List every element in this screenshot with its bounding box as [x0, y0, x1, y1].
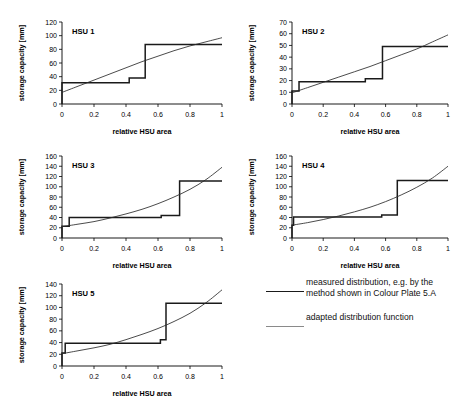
- y-tick-label: 40: [279, 214, 287, 221]
- chart-svg-1: 02040608010012000.20.40.60.81relative HS…: [14, 10, 230, 140]
- y-tick-label: 100: [45, 304, 57, 311]
- x-axis-title: relative HSU area: [112, 261, 172, 270]
- y-tick-label: 80: [49, 194, 57, 201]
- series-adapted-curve: [62, 38, 222, 93]
- y-tick-label: 20: [49, 351, 57, 358]
- x-tick-label: 1: [446, 245, 450, 252]
- legend-item-adapted: adapted distribution function: [262, 311, 458, 331]
- y-tick-label: 120: [45, 19, 57, 26]
- x-axis-title: relative HSU area: [340, 127, 400, 136]
- x-tick-label: 1: [446, 111, 450, 118]
- x-tick-label: 0.8: [185, 245, 195, 252]
- y-tick-label: 80: [279, 194, 287, 201]
- y-tick-label: 160: [275, 153, 287, 160]
- x-tick-label: 0.4: [350, 111, 360, 118]
- x-tick-label: 0: [290, 245, 294, 252]
- x-tick-label: 0.8: [412, 245, 422, 252]
- figure-legend: measured distribution, e.g. by the metho…: [262, 276, 458, 342]
- y-tick-label: 140: [45, 163, 57, 170]
- x-tick-label: 0.8: [185, 111, 195, 118]
- x-tick-label: 0.2: [318, 245, 328, 252]
- x-tick-label: 0.4: [350, 245, 360, 252]
- y-axis-title: storage capacity [mm]: [247, 159, 256, 235]
- chart-panel-5: 02040608010012014000.20.40.60.81relative…: [14, 272, 230, 400]
- panel-title: HSU 3: [72, 161, 94, 170]
- y-axis-title: storage capacity [mm]: [247, 25, 256, 101]
- y-tick-label: 80: [49, 46, 57, 53]
- chart-svg-5: 02040608010012014000.20.40.60.81relative…: [14, 272, 230, 400]
- series-measured-step: [292, 181, 448, 238]
- y-tick-label: 20: [49, 224, 57, 231]
- y-tick-label: 60: [49, 327, 57, 334]
- y-tick-label: 40: [49, 73, 57, 80]
- x-tick-label: 0.6: [153, 373, 163, 380]
- y-tick-label: 20: [279, 77, 287, 84]
- x-tick-label: 0.4: [121, 111, 131, 118]
- y-tick-label: 60: [279, 30, 287, 37]
- y-tick-label: 0: [53, 235, 57, 242]
- x-tick-label: 0.6: [153, 111, 163, 118]
- y-tick-label: 0: [53, 101, 57, 108]
- y-axis-title: storage capacity [mm]: [17, 159, 26, 235]
- x-tick-label: 0: [290, 111, 294, 118]
- panel-title: HSU 4: [302, 161, 325, 170]
- y-tick-label: 20: [49, 87, 57, 94]
- x-tick-label: 0.6: [381, 245, 391, 252]
- legend-label-adapted: adapted distribution function: [306, 311, 414, 323]
- x-tick-label: 0: [60, 373, 64, 380]
- legend-item-measured: measured distribution, e.g. by the metho…: [262, 276, 458, 300]
- y-tick-label: 40: [49, 339, 57, 346]
- x-axis-title: relative HSU area: [112, 127, 172, 136]
- y-tick-label: 140: [45, 281, 57, 288]
- legend-line-measured-icon: [262, 287, 306, 296]
- x-tick-label: 0.8: [185, 373, 195, 380]
- y-tick-label: 20: [279, 224, 287, 231]
- series-measured-step: [62, 45, 222, 104]
- x-tick-label: 0.6: [381, 111, 391, 118]
- chart-svg-4: 02040608010012014016000.20.40.60.81relat…: [244, 144, 456, 274]
- series-adapted-curve: [292, 35, 448, 93]
- panel-title: HSU 2: [302, 27, 324, 36]
- y-tick-label: 60: [279, 204, 287, 211]
- y-tick-label: 0: [53, 363, 57, 370]
- y-tick-label: 70: [279, 19, 287, 26]
- y-tick-label: 0: [283, 101, 287, 108]
- y-tick-label: 10: [279, 89, 287, 96]
- x-tick-label: 0.2: [89, 373, 99, 380]
- panel-title: HSU 1: [72, 27, 95, 36]
- x-axis-title: relative HSU area: [340, 261, 400, 270]
- x-tick-label: 0.4: [121, 373, 131, 380]
- y-axis-title: storage capacity [mm]: [17, 287, 26, 363]
- y-tick-label: 0: [283, 235, 287, 242]
- x-tick-label: 0.2: [318, 111, 328, 118]
- y-tick-label: 100: [45, 32, 57, 39]
- chart-svg-2: 01020304050607000.20.40.60.81relative HS…: [244, 10, 456, 140]
- series-adapted-curve: [62, 290, 222, 354]
- x-tick-label: 0.2: [89, 245, 99, 252]
- y-tick-label: 140: [275, 163, 287, 170]
- figure-canvas: 02040608010012000.20.40.60.81relative HS…: [0, 0, 460, 400]
- chart-panel-4: 02040608010012014016000.20.40.60.81relat…: [244, 144, 456, 274]
- y-tick-label: 60: [49, 60, 57, 67]
- x-tick-label: 0: [60, 245, 64, 252]
- x-tick-label: 0.4: [121, 245, 131, 252]
- legend-line-adapted-icon: [262, 322, 306, 331]
- series-measured-step: [292, 47, 448, 104]
- panel-title: HSU 5: [72, 289, 95, 298]
- y-tick-label: 120: [45, 173, 57, 180]
- x-tick-label: 0: [60, 111, 64, 118]
- y-tick-label: 40: [49, 214, 57, 221]
- x-tick-label: 1: [220, 373, 224, 380]
- y-tick-label: 160: [45, 153, 57, 160]
- y-tick-label: 100: [45, 183, 57, 190]
- x-axis-title: relative HSU area: [112, 389, 172, 398]
- y-tick-label: 30: [279, 65, 287, 72]
- y-tick-label: 120: [45, 292, 57, 299]
- chart-svg-3: 02040608010012014016000.20.40.60.81relat…: [14, 144, 230, 274]
- x-tick-label: 1: [220, 111, 224, 118]
- y-tick-label: 80: [49, 316, 57, 323]
- x-tick-label: 0.8: [412, 111, 422, 118]
- y-tick-label: 100: [275, 183, 287, 190]
- y-tick-label: 60: [49, 204, 57, 211]
- x-tick-label: 0.2: [89, 111, 99, 118]
